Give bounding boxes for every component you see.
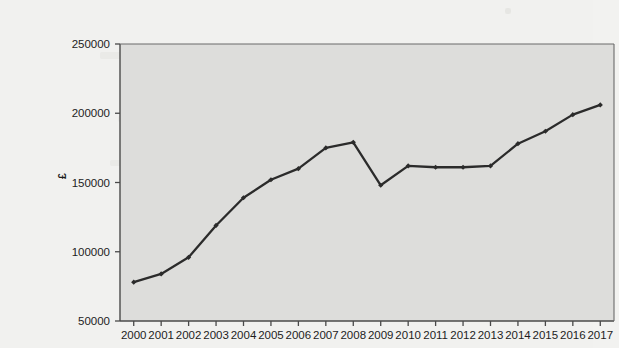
x-axis-tick-label: 2006 [286, 329, 312, 341]
x-axis-tick-label: 2011 [423, 329, 448, 341]
x-axis-tick-label: 2013 [478, 329, 504, 341]
y-axis-tick-label: 50000 [78, 315, 110, 327]
x-axis-tick-label: 2016 [560, 329, 586, 341]
y-axis-title-group: £ [56, 173, 68, 179]
x-axis-tick-label: 2000 [121, 329, 147, 341]
x-axis-tick-label: 2008 [340, 329, 366, 341]
x-axis-tick-label: 2004 [231, 329, 257, 341]
y-axis: 50000100000150000200000250000 [72, 38, 120, 327]
x-axis-tick-label: 2005 [258, 329, 284, 341]
x-axis-tick-label: 2014 [505, 329, 531, 341]
y-axis-tick-label: 150000 [72, 177, 110, 189]
x-axis-tick-label: 2003 [203, 329, 229, 341]
plot-area-background [120, 44, 614, 321]
x-axis: 2000200120022003200420052006200720082009… [121, 321, 613, 341]
x-axis-tick-label: 2009 [368, 329, 394, 341]
x-axis-tick-label: 2007 [313, 329, 339, 341]
x-axis-tick-label: 2010 [395, 329, 421, 341]
line-chart-figure: 50000100000150000200000250000 2000200120… [40, 16, 619, 348]
y-axis-tick-label: 100000 [72, 246, 110, 258]
chart-canvas: 50000100000150000200000250000 2000200120… [40, 16, 619, 348]
x-axis-tick-label: 2002 [176, 329, 202, 341]
y-axis-tick-label: 200000 [72, 107, 110, 119]
x-axis-tick-label: 2015 [533, 329, 559, 341]
x-axis-tick-label: 2012 [450, 329, 476, 341]
bleed-through-artifact [505, 8, 511, 14]
x-axis-tick-label: 2001 [148, 329, 174, 341]
y-axis-title: £ [56, 173, 68, 179]
x-axis-tick-label: 2017 [587, 329, 613, 341]
y-axis-tick-label: 250000 [72, 38, 110, 50]
